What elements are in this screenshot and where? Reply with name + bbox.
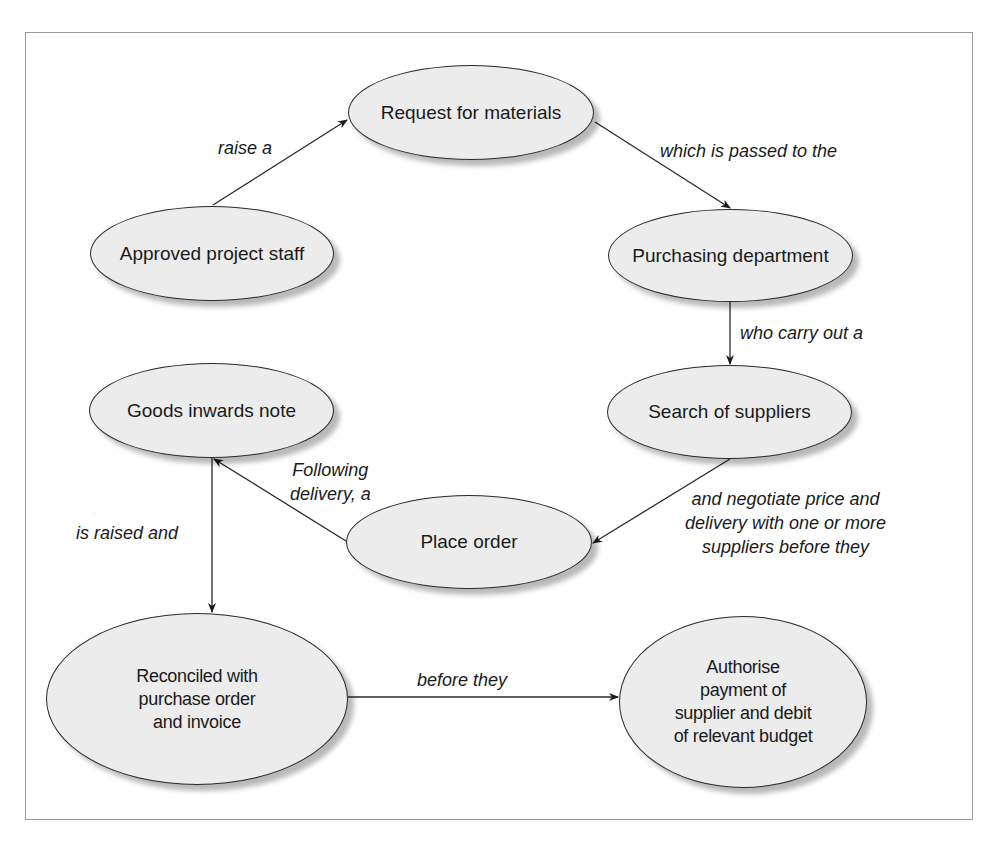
node-approved-project-staff: Approved project staff xyxy=(90,206,334,301)
node-request-for-materials: Request for materials xyxy=(348,65,594,160)
edge-label-before-they: before they xyxy=(417,668,507,692)
node-purchasing-department: Purchasing department xyxy=(608,209,853,302)
node-label: Place order xyxy=(420,530,517,554)
edge-label-carry-out: who carry out a xyxy=(740,321,863,345)
node-place-order: Place order xyxy=(346,495,592,589)
node-label-line: supplier and debit xyxy=(674,702,813,725)
node-label: Purchasing department xyxy=(632,244,828,268)
edge-label-raised-and: is raised and xyxy=(76,521,178,545)
node-reconciled: Reconciled with purchase order and invoi… xyxy=(46,613,348,785)
node-search-of-suppliers: Search of suppliers xyxy=(607,365,852,459)
node-label-line: purchase order xyxy=(136,688,258,711)
node-goods-inwards-note: Goods inwards note xyxy=(89,363,334,458)
edge-label-following: Following delivery, a xyxy=(290,458,371,506)
edge-label-line: suppliers before they xyxy=(685,535,886,559)
node-label-line: payment of xyxy=(674,679,813,702)
edge-label-negotiate: and negotiate price and delivery with on… xyxy=(685,487,886,559)
node-label: Approved project staff xyxy=(120,242,304,266)
edge-label-passed: which is passed to the xyxy=(660,139,837,163)
arrow-request-to-purchasing xyxy=(595,122,730,208)
edge-label-line: and negotiate price and xyxy=(685,487,886,511)
edge-label-line: delivery, a xyxy=(290,482,371,506)
node-label-line: Authorise xyxy=(674,656,813,679)
node-label: Goods inwards note xyxy=(127,399,296,423)
edge-label-raise: raise a xyxy=(218,136,272,160)
node-label-block: Authorise payment of supplier and debit … xyxy=(674,656,813,748)
arrow-staff-to-request xyxy=(213,120,347,205)
node-label-block: Reconciled with purchase order and invoi… xyxy=(136,665,258,734)
edge-label-line: Following xyxy=(290,458,371,482)
node-label-line: of relevant budget xyxy=(674,725,813,748)
node-authorise-payment: Authorise payment of supplier and debit … xyxy=(619,616,867,788)
edge-label-line: delivery with one or more xyxy=(685,511,886,535)
node-label: Search of suppliers xyxy=(648,400,811,424)
node-label: Request for materials xyxy=(381,101,562,125)
node-label-line: and invoice xyxy=(136,711,258,734)
node-label-line: Reconciled with xyxy=(136,665,258,688)
